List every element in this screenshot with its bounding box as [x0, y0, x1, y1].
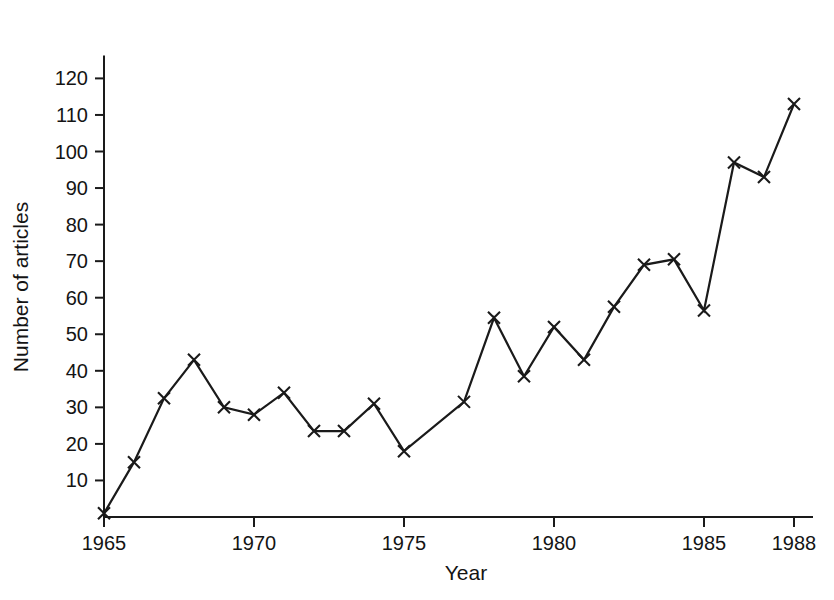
y-tick-label: 20	[66, 433, 88, 455]
y-tick-label: 100	[55, 141, 88, 163]
data-point-marker	[758, 171, 770, 183]
x-tick-label: 1988	[772, 532, 817, 554]
data-point-marker	[548, 321, 560, 333]
y-tick-label: 90	[66, 177, 88, 199]
data-point-marker	[608, 301, 620, 313]
data-point-marker	[278, 387, 290, 399]
y-tick-label: 50	[66, 323, 88, 345]
x-tick-label: 1980	[532, 532, 577, 554]
data-point-marker	[578, 354, 590, 366]
data-point-markers	[98, 98, 800, 519]
y-tick-label: 120	[55, 67, 88, 89]
data-point-marker	[128, 456, 140, 468]
data-point-marker	[158, 392, 170, 404]
data-point-marker	[518, 370, 530, 382]
y-tick-label: 70	[66, 250, 88, 272]
y-tick-label: 60	[66, 287, 88, 309]
x-tick-label: 1965	[82, 532, 127, 554]
y-tick-label: 110	[56, 104, 88, 126]
x-tick-label: 1985	[682, 532, 727, 554]
data-point-marker	[788, 98, 800, 110]
y-tick-label: 30	[66, 396, 88, 418]
y-axis-ticks: 102030405060708090100110120	[55, 67, 104, 491]
y-tick-label: 80	[66, 214, 88, 236]
data-point-marker	[368, 398, 380, 410]
x-tick-label: 1970	[232, 532, 277, 554]
data-point-marker	[398, 445, 410, 457]
y-tick-label: 40	[66, 360, 88, 382]
line-chart: 102030405060708090100110120 196519701975…	[0, 0, 834, 600]
y-tick-label: 10	[66, 469, 88, 491]
data-point-marker	[188, 354, 200, 366]
data-series-line	[104, 104, 794, 513]
x-tick-label: 1975	[382, 532, 427, 554]
data-point-marker	[488, 312, 500, 324]
chart-figure: 102030405060708090100110120 196519701975…	[0, 0, 834, 600]
y-axis-title: Number of articles	[9, 202, 32, 372]
x-axis-title: Year	[445, 561, 487, 584]
data-point-marker	[458, 396, 470, 408]
x-axis-ticks: 196519701975198019851988	[82, 517, 817, 554]
